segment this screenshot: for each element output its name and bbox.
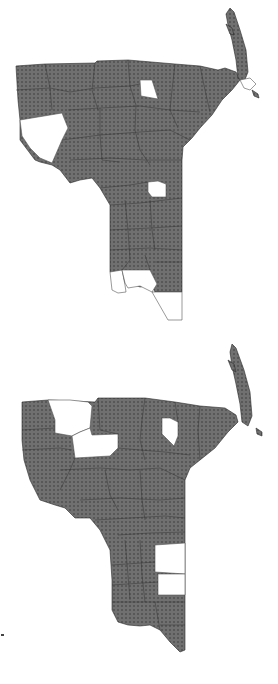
map-bottom-svg (0, 340, 278, 684)
map-panel-top (0, 0, 278, 340)
map-top-south-tip-east (152, 292, 182, 320)
map-top-landmass (16, 60, 240, 292)
map-panel-bottom (0, 340, 278, 684)
map-bottom-southeast-lower (158, 574, 185, 595)
map-bottom-southeast-upper (155, 543, 185, 574)
map-top-coast-islets (240, 78, 256, 90)
map-bottom-landmass (22, 398, 238, 652)
stray-scan-mark (1, 634, 4, 636)
map-top-svg (0, 0, 278, 340)
map-bottom-islet (256, 428, 262, 436)
map-top-central-square (148, 181, 166, 197)
map-top-south-tip-middle (122, 270, 157, 292)
map-top-islet (252, 90, 259, 98)
